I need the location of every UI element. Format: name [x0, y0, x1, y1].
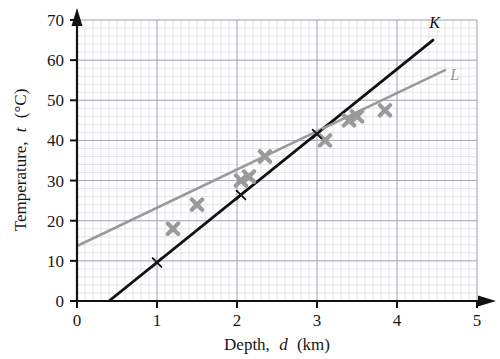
y-axis-title-unit: (°C) [11, 89, 30, 118]
x-tick-label: 5 [473, 311, 482, 330]
y-tick-label: 70 [47, 11, 64, 30]
svg-text:Temperature, t: Temperature, t (°C) [11, 89, 30, 232]
y-axis-title: Temperature, t (°C) [11, 89, 30, 232]
x-axis-title-variable: d [279, 335, 288, 354]
x-axis-title-unit: (km) [297, 335, 330, 354]
x-tick-label: 1 [153, 311, 162, 330]
y-tick-label: 60 [47, 51, 64, 70]
y-axis-title-prefix: Temperature, [11, 141, 30, 231]
series-label-l: L [449, 66, 459, 83]
x-tick-label: 2 [233, 311, 242, 330]
y-tick-label: 40 [47, 131, 64, 150]
y-tick-label: 50 [47, 91, 64, 110]
y-tick-label: 10 [47, 252, 64, 271]
y-tick-label: 20 [47, 212, 64, 231]
x-tick-label: 0 [73, 311, 82, 330]
x-axis-title-prefix: Depth, [224, 335, 270, 354]
x-tick-label: 3 [313, 311, 322, 330]
y-tick-label: 30 [47, 172, 64, 191]
x-tick-label: 4 [393, 311, 402, 330]
y-axis-title-variable: t [11, 126, 30, 132]
chart-container: 012345 010203040506070 KL Depth, d (km) … [0, 0, 500, 359]
y-tick-label: 0 [56, 292, 65, 311]
series-label-k: K [428, 14, 441, 31]
temperature-depth-scatter-chart: 012345 010203040506070 KL Depth, d (km) … [0, 0, 500, 359]
